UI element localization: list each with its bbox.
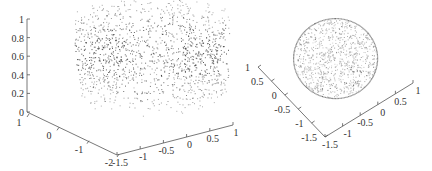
left-x-tick-label: 1 [17,117,22,128]
left-z-tick-label: 1 [19,14,24,25]
right-x-tick-label: -1 [295,118,303,129]
left-z-tick-label: 0.8 [12,33,25,44]
right-x-axis [258,67,325,137]
right-x-tick [271,79,274,81]
left-y-tick-label: -1 [139,151,147,162]
right-y-tick-label: 0.5 [394,96,407,107]
left-y-tick-label: 0.5 [207,133,220,144]
left-z-tick-label: 0.6 [12,51,25,62]
right-y-tick-label: -1 [343,128,351,139]
left-x-axis [27,112,117,155]
left-x-tick [57,127,59,130]
left-y-tick-label: -1.5 [112,157,128,168]
left-x-tick-label: -1 [75,144,83,155]
right-y-axis [325,83,413,137]
right-x-tick [312,121,315,123]
right-x-tick-label: -0.5 [274,104,290,115]
right-y-tick-label: -1.5 [322,139,338,150]
right-y-tick-label: -0.5 [357,117,373,128]
left-y-tick-label: 0 [187,139,192,150]
right-x-tick [298,107,301,109]
right-3d-plot: 10.50-0.5-1-1.5-1.5-1-0.500.51 [245,18,421,150]
left-x-tick [27,114,29,117]
figure: 00.20.40.60.8110-1-2-1.5-1-0.500.51 10.5… [0,0,432,171]
right-x-tick-label: 0 [272,90,277,101]
left-z-tick-label: 0.4 [12,70,25,81]
right-y-tick-label: 0 [380,107,385,118]
right-x-tick [285,93,288,95]
right-x-tick [258,65,261,67]
right-x-tick-label: 1 [245,62,250,73]
left-z-tick-label: 0.2 [12,88,25,99]
left-3d-plot: 00.20.40.60.8110-1-2-1.5-1-0.500.51 [12,0,239,168]
right-x-tick [325,135,328,137]
right-x-tick-label: 0.5 [251,76,264,87]
left-point-cloud [75,0,230,117]
left-x-tick-label: 0 [47,130,52,141]
left-y-tick-label: 1 [234,127,239,138]
left-y-tick-label: -0.5 [158,145,174,156]
right-y-tick-label: 1 [416,85,421,96]
right-x-tick-label: -1.5 [301,132,317,143]
right-point-cloud [293,18,378,99]
